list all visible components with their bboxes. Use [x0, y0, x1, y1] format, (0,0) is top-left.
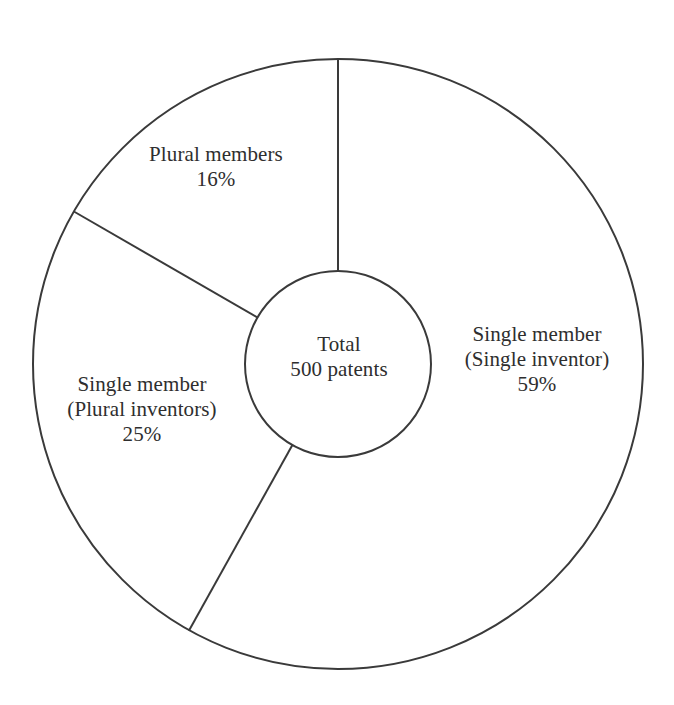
slice-label-single-member-plural-inventors: Single member (Plural inventors) 25%: [32, 372, 252, 446]
pie-center-total-value: 500 patents: [248, 357, 430, 382]
pie-center-total-label: Total 500 patents: [248, 332, 430, 382]
slice-label-plural-members-percent: 16%: [96, 167, 336, 192]
slice-label-plural-inventors-percent: 25%: [32, 422, 252, 447]
slice-label-single-inventor-percent: 59%: [427, 372, 647, 397]
slice-label-single-inventor-name: Single member: [427, 322, 647, 347]
slice-label-plural-members-name: Plural members: [96, 142, 336, 167]
slice-label-single-inventor-qualifier: (Single inventor): [427, 347, 647, 372]
slice-label-single-member-single-inventor: Single member (Single inventor) 59%: [427, 322, 647, 396]
slice-label-plural-members: Plural members 16%: [96, 142, 336, 192]
slice-label-plural-inventors-name: Single member: [32, 372, 252, 397]
slice-label-plural-inventors-qualifier: (Plural inventors): [32, 397, 252, 422]
pie-chart: Plural members 16% Single member (Single…: [0, 0, 674, 705]
pie-center-total-title: Total: [248, 332, 430, 357]
